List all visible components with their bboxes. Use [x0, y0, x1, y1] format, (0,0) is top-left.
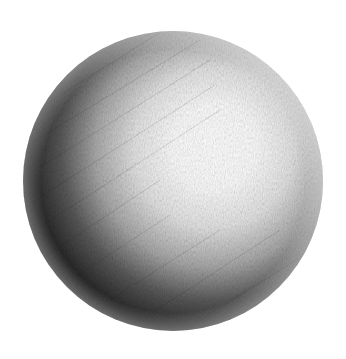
sphere-rim [23, 31, 323, 331]
drawing-canvas [0, 0, 346, 359]
sphere-drawing [0, 0, 346, 359]
